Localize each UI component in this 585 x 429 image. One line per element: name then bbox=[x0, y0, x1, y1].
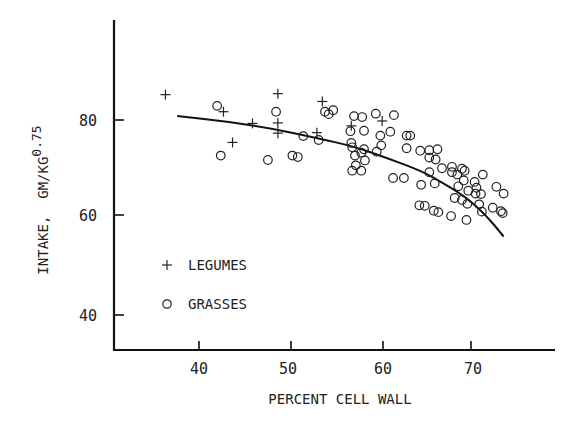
legume-point bbox=[273, 89, 283, 99]
grasses-series bbox=[213, 102, 508, 225]
grass-point bbox=[430, 179, 439, 188]
grass-point bbox=[346, 127, 355, 136]
grass-point bbox=[447, 212, 456, 221]
grass-point bbox=[497, 207, 506, 216]
grass-point bbox=[498, 209, 507, 218]
y-tick-label-80: 80 bbox=[79, 112, 97, 130]
x-tick-label-70: 70 bbox=[464, 360, 482, 378]
grass-point bbox=[478, 170, 487, 179]
grass-point bbox=[499, 189, 508, 198]
grass-point bbox=[272, 107, 281, 116]
grass-point bbox=[438, 164, 447, 173]
grass-point bbox=[462, 216, 471, 225]
legume-point bbox=[160, 90, 170, 100]
grass-point bbox=[472, 183, 481, 192]
svg-text:INTAKE, GM/KG0.75: INTAKE, GM/KG0.75 bbox=[29, 125, 51, 274]
legume-point bbox=[317, 96, 327, 106]
grass-point bbox=[350, 112, 359, 121]
grass-point bbox=[294, 153, 303, 162]
x-axis-title: PERCENT CELL WALL bbox=[268, 391, 411, 407]
y-tick-label-60: 60 bbox=[79, 207, 97, 225]
y-axis-title-superscript: 0.75 bbox=[29, 125, 44, 156]
grass-point bbox=[377, 141, 386, 150]
grass-point bbox=[433, 145, 442, 154]
grass-point bbox=[358, 113, 367, 122]
grass-point bbox=[389, 174, 398, 183]
grass-point bbox=[357, 166, 366, 175]
x-tick-label-50: 50 bbox=[279, 360, 297, 378]
grass-point bbox=[390, 111, 399, 120]
legend-grasses-marker-icon bbox=[163, 300, 171, 308]
grass-point bbox=[386, 127, 395, 136]
grass-point bbox=[492, 182, 501, 191]
grass-point bbox=[477, 190, 486, 199]
grass-point bbox=[360, 126, 369, 135]
grass-point bbox=[458, 164, 467, 173]
legend-legumes-marker-icon bbox=[162, 260, 172, 270]
y-ticks bbox=[114, 120, 124, 315]
x-ticks bbox=[199, 341, 471, 350]
scatter-chart: 80 60 40 40 50 60 70 PERCENT CELL WALL I… bbox=[0, 0, 585, 429]
grass-point bbox=[372, 109, 381, 118]
grass-point bbox=[470, 178, 479, 187]
x-tick-label-40: 40 bbox=[190, 360, 208, 378]
grass-point bbox=[213, 102, 222, 111]
y-axis-title: INTAKE, GM/KG0.75 bbox=[29, 125, 51, 274]
legend-grasses-label: GRASSES bbox=[188, 296, 247, 312]
grass-point bbox=[376, 131, 385, 140]
grass-point bbox=[288, 151, 297, 160]
grass-point bbox=[454, 182, 463, 191]
x-tick-label-60: 60 bbox=[374, 360, 392, 378]
grass-point bbox=[417, 181, 426, 190]
y-axis-title-main: INTAKE, GM/KG bbox=[35, 157, 51, 275]
y-tick-label-40: 40 bbox=[79, 307, 97, 325]
legend: LEGUMES GRASSES bbox=[162, 257, 247, 312]
grass-point bbox=[416, 146, 425, 155]
grass-point bbox=[361, 156, 370, 165]
legume-point bbox=[273, 118, 283, 128]
legend-legumes-label: LEGUMES bbox=[188, 257, 247, 273]
grass-point bbox=[216, 151, 225, 160]
grass-point bbox=[264, 156, 273, 165]
legume-point bbox=[218, 107, 228, 117]
legume-point bbox=[228, 137, 238, 147]
grass-point bbox=[402, 144, 411, 153]
grass-point bbox=[448, 168, 457, 177]
grass-point bbox=[488, 203, 497, 212]
grass-point bbox=[400, 174, 409, 183]
grass-point bbox=[415, 201, 424, 210]
